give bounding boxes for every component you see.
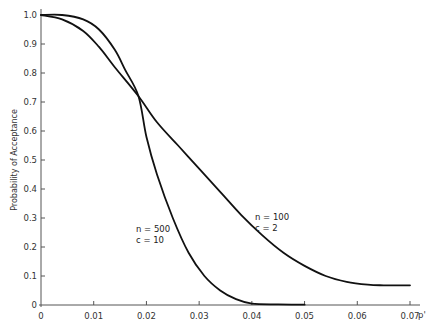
series-label-line: c = 10 bbox=[136, 235, 164, 245]
x-axis-title: p' bbox=[418, 310, 426, 320]
series-labels: n = 500c = 10n = 100c = 2 bbox=[136, 212, 289, 245]
x-tick-label: 0.01 bbox=[84, 311, 103, 321]
series-label-line: c = 2 bbox=[255, 223, 278, 233]
x-tick-label: 0.07 bbox=[401, 311, 420, 321]
y-tick-label: 0.3 bbox=[23, 213, 37, 223]
series-curve-0 bbox=[41, 15, 305, 305]
x-tick-label: 0 bbox=[38, 311, 43, 321]
x-tick-label: 0.03 bbox=[190, 311, 209, 321]
curves bbox=[41, 15, 410, 305]
y-tick-label: 0.5 bbox=[23, 155, 37, 165]
series-label-line: n = 100 bbox=[255, 212, 289, 222]
x-tick-label: 0.04 bbox=[242, 311, 261, 321]
series-curve-1 bbox=[41, 15, 410, 285]
x-tick-label: 0.02 bbox=[137, 311, 156, 321]
y-tick-label: 0.4 bbox=[23, 184, 37, 194]
y-tick-label: 0.7 bbox=[23, 97, 37, 107]
ticks: 00.010.020.030.040.050.060.0700.10.20.30… bbox=[23, 10, 419, 321]
x-tick-label: 0.06 bbox=[348, 311, 367, 321]
y-tick-label: 0.9 bbox=[23, 39, 37, 49]
y-tick-label: 0.2 bbox=[23, 242, 37, 252]
y-axis-title: Probability of Acceptance bbox=[10, 109, 19, 211]
y-tick-label: 1.0 bbox=[23, 10, 37, 20]
oc-curve-chart: 00.010.020.030.040.050.060.0700.10.20.30… bbox=[0, 0, 441, 331]
y-tick-label: 0.8 bbox=[23, 68, 37, 78]
y-tick-label: 0 bbox=[32, 300, 37, 310]
axes bbox=[39, 9, 420, 307]
y-tick-label: 0.1 bbox=[23, 271, 37, 281]
x-tick-label: 0.05 bbox=[295, 311, 314, 321]
series-label-line: n = 500 bbox=[136, 224, 170, 234]
y-tick-label: 0.6 bbox=[23, 126, 37, 136]
